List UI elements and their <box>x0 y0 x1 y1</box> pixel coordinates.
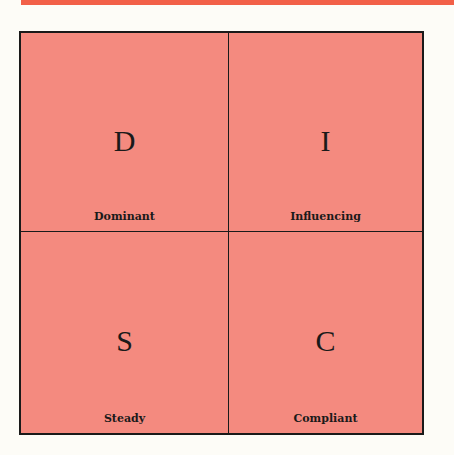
quadrant-label: Compliant <box>229 412 422 425</box>
quadrant-dominant: D Dominant <box>21 33 229 232</box>
quadrant-label: Steady <box>21 412 228 425</box>
quadrant-label: Dominant <box>21 210 228 223</box>
quadrant-compliant: C Compliant <box>229 232 422 433</box>
quadrant-letter: D <box>21 126 228 156</box>
top-accent-bar <box>21 0 454 5</box>
quadrant-letter: I <box>229 126 422 156</box>
quadrant-letter: C <box>229 326 422 356</box>
quadrant-steady: S Steady <box>21 232 229 433</box>
quadrant-letter: S <box>21 326 228 356</box>
quadrant-influencing: I Influencing <box>229 33 422 232</box>
quadrant-label: Influencing <box>229 210 422 223</box>
disc-grid: D Dominant I Influencing S Steady C Comp… <box>19 31 424 435</box>
